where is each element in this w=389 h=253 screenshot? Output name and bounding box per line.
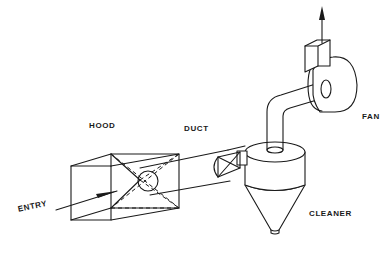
hood-shape	[71, 154, 179, 220]
cleaner-shape	[237, 142, 305, 234]
ventilation-system-diagram: HOOD DUCT FAN CLEANER ENTRY	[0, 0, 389, 253]
cleaner-label: CLEANER	[309, 209, 352, 218]
exhaust-arrow-icon	[319, 6, 325, 43]
duct-label: DUCT	[184, 124, 209, 133]
hood-label: HOOD	[89, 121, 115, 130]
fan-label: FAN	[362, 112, 380, 121]
entry-arrow-icon	[56, 191, 117, 210]
